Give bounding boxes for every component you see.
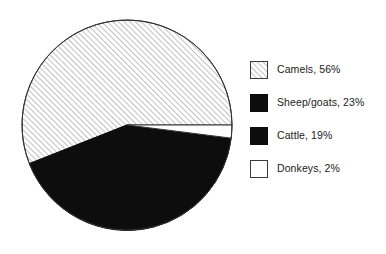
hatched-swatch-icon [250,61,268,79]
pie-chart-plot-area [0,0,254,254]
legend-item-cattle[interactable]: Cattle, 19% [250,126,386,145]
black-swatch-icon [250,127,268,145]
legend-label-camels: Camels, 56% [277,60,341,79]
white-swatch-icon [250,160,268,178]
black-swatch-icon [250,94,268,112]
legend-item-camels[interactable]: Camels, 56% [250,60,386,79]
legend-label-donkeys: Donkeys, 2% [277,159,340,178]
legend-label-cattle: Cattle, 19% [277,126,332,145]
chart-legend: Camels, 56% Sheep/goats, 23% Cattle, 19%… [250,60,386,192]
legend-item-donkeys[interactable]: Donkeys, 2% [250,159,386,178]
legend-item-sheep-goats[interactable]: Sheep/goats, 23% [250,93,386,112]
pie-chart-figure: Camels, 56% Sheep/goats, 23% Cattle, 19%… [0,0,386,254]
legend-label-sheep-goats: Sheep/goats, 23% [277,93,364,112]
pie-chart-svg [0,0,254,254]
